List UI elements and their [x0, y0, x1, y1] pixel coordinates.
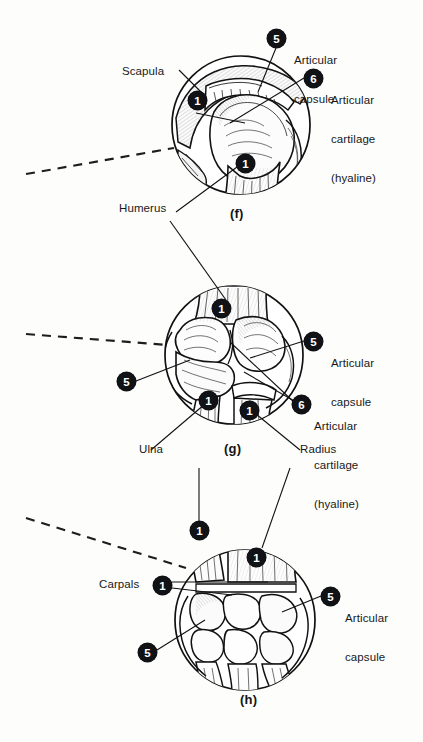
panel-h-art: [157, 468, 321, 692]
badge-1-radius-g[interactable]: 1: [240, 401, 259, 420]
caption-f: (f): [230, 206, 244, 221]
articular-cartilage-line1: Articular: [314, 420, 359, 433]
badge-1-humerus-f[interactable]: 1: [236, 154, 255, 173]
caption-g: (g): [224, 441, 241, 456]
label-articular-capsule-h: Articular capsule: [345, 586, 388, 690]
badge-6-cartilage-g[interactable]: 6: [292, 395, 311, 414]
panel-g-art: [136, 221, 304, 450]
badge-1-humerus-g[interactable]: 1: [212, 299, 231, 318]
label-radius: Radius: [300, 443, 336, 456]
articular-cartilage-line1: Articular: [331, 94, 376, 107]
badge-5-capsule-left-h[interactable]: 5: [138, 643, 157, 662]
label-articular-cartilage-g: Articular cartilage (hyaline): [314, 394, 359, 537]
articular-cartilage-line2: cartilage: [314, 459, 359, 472]
badge-1-radius-h[interactable]: 1: [247, 548, 266, 567]
badge-1-scapula-f[interactable]: 1: [188, 91, 207, 110]
badge-5-capsule-right-g[interactable]: 5: [304, 332, 323, 351]
articular-capsule-line1: Articular: [345, 612, 388, 625]
label-scapula: Scapula: [122, 65, 164, 78]
badge-5-capsule-left-g[interactable]: 5: [117, 372, 136, 391]
articular-capsule-line1: Articular: [294, 54, 337, 67]
articular-capsule-line1: Articular: [331, 357, 374, 370]
anatomy-figure: Scapula Humerus Articular capsule Articu…: [0, 0, 423, 742]
badge-1-ulna-h[interactable]: 1: [190, 521, 209, 540]
panel-f-art: [172, 48, 310, 212]
label-humerus: Humerus: [119, 202, 166, 215]
label-carpals: Carpals: [99, 578, 139, 591]
articular-cartilage-line3: (hyaline): [331, 172, 376, 185]
label-articular-cartilage-f: Articular cartilage (hyaline): [331, 68, 376, 211]
articular-capsule-line2: capsule: [345, 651, 388, 664]
badge-5-capsule-right-h[interactable]: 5: [321, 587, 340, 606]
articular-cartilage-line2: cartilage: [331, 133, 376, 146]
badge-6-cartilage-f[interactable]: 6: [304, 69, 323, 88]
badge-1-ulna-g[interactable]: 1: [199, 391, 218, 410]
badge-1-carpals-h[interactable]: 1: [153, 576, 172, 595]
badge-5-capsule-f[interactable]: 5: [267, 29, 286, 48]
label-ulna: Ulna: [139, 443, 163, 456]
caption-h: (h): [240, 692, 257, 707]
articular-cartilage-line3: (hyaline): [314, 498, 359, 511]
